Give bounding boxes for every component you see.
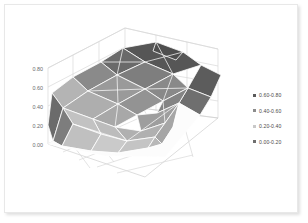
z-tick-label-080: 0.80	[33, 66, 44, 72]
legend-swatch-icon	[253, 94, 256, 97]
surface-chart-plot-area[interactable]: 0.80 0.60 0.40 0.20 0.00	[5, 5, 250, 214]
legend-item-label: 0.60-0.80	[259, 92, 281, 98]
legend-item-label: 0.20-0.40	[259, 123, 281, 129]
z-tick-label-020: 0.20	[33, 123, 44, 129]
legend-item[interactable]: 0.60-0.80	[253, 89, 301, 101]
z-tick-label-060: 0.60	[33, 85, 44, 91]
legend-swatch-icon	[253, 125, 256, 128]
legend-item[interactable]: 0.20-0.40	[253, 120, 301, 132]
z-tick-label-040: 0.40	[33, 104, 44, 110]
chart-card: 0.80 0.60 0.40 0.20 0.00 0.60-0.80 0.40-…	[4, 4, 298, 213]
chart-legend[interactable]: 0.60-0.80 0.40-0.60 0.20-0.40 0.00-0.20	[253, 89, 301, 151]
legend-swatch-icon	[253, 140, 256, 143]
legend-item[interactable]: 0.00-0.20	[253, 136, 301, 148]
z-tick-label-000: 0.00	[33, 142, 44, 148]
surface-chart-svg: 0.80 0.60 0.40 0.20 0.00	[5, 5, 250, 214]
legend-item-label: 0.00-0.20	[259, 139, 281, 145]
z-axis-labels: 0.80 0.60 0.40 0.20 0.00	[33, 66, 44, 148]
legend-item[interactable]: 0.40-0.60	[253, 105, 301, 117]
legend-item-label: 0.40-0.60	[259, 108, 281, 114]
legend-swatch-icon	[253, 109, 256, 112]
surface-mesh	[48, 42, 221, 157]
